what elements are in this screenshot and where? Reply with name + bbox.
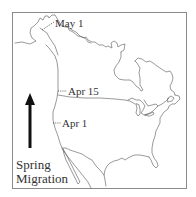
hudson-bay-coastline [114,52,143,91]
may1-leader [42,22,54,30]
atlantic-coastline [149,95,180,168]
up-arrow-icon [25,93,35,148]
nova-scotia [168,96,174,102]
mexico-border [62,148,104,175]
legend-line-1: Spring [16,158,68,172]
gulf-coastline [104,155,149,186]
date-label-may-1: May 1 [55,18,83,29]
date-label-apr-15: Apr 15 [68,86,99,97]
legend: Spring Migration [16,158,68,186]
alaska-panhandle [40,28,58,55]
st-lawrence [158,98,169,106]
date-label-apr-1: Apr 1 [62,118,87,129]
quebec-coastline [135,58,175,95]
arctic-coastline [68,27,125,52]
lake-michigan [136,104,140,116]
legend-line-2: Migration [16,172,68,186]
